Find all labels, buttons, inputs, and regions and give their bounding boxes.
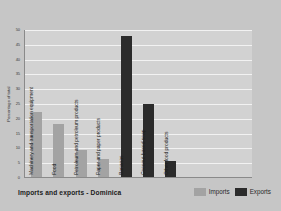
- bar-group: Coconut-based soap: [143, 30, 154, 177]
- chart-figure: 50454035302520151050 Percentage of total…: [0, 0, 281, 211]
- bar-group: Petroleum and petroleum products: [76, 30, 87, 177]
- y-axis-tick-label: 0: [18, 176, 20, 180]
- legend-label-exports: Exports: [250, 189, 271, 195]
- legend-item-imports: Imports: [194, 188, 230, 196]
- bar-group: Bananas: [121, 30, 132, 177]
- y-axis-tick-label: 35: [16, 72, 20, 76]
- y-axis-tick-label: 50: [16, 28, 20, 32]
- y-axis-tick-label: 30: [16, 87, 20, 91]
- x-axis-category-label: Food: [52, 164, 57, 175]
- y-axis-tick-label: 40: [16, 58, 20, 62]
- y-axis-tick-label: 25: [16, 102, 20, 106]
- y-axis-tick-label: 10: [16, 146, 20, 150]
- x-axis-category-label: Paper and paper products: [96, 118, 101, 175]
- legend-swatch-imports-icon: [194, 188, 206, 196]
- y-axis-tick-label: 20: [16, 117, 20, 121]
- legend-label-imports: Imports: [209, 189, 230, 195]
- chart-title: Imports and exports - Dominica: [18, 190, 121, 197]
- legend-swatch-exports-icon: [235, 188, 247, 196]
- x-axis-category-label: Coconut-based soap: [141, 129, 146, 175]
- legend-item-exports: Exports: [235, 188, 271, 196]
- bar-group: Machinery and transportation equipment: [31, 30, 42, 177]
- bar-group: Paper and paper products: [98, 30, 109, 177]
- bar-group: Food: [53, 30, 64, 177]
- y-axis-tick-label: 5: [18, 161, 20, 165]
- bar-group: Other food products: [165, 30, 176, 177]
- x-axis-category-label: Bananas: [119, 155, 124, 175]
- y-axis-tick-label: 45: [16, 43, 20, 47]
- x-axis-category-label: Other food products: [164, 131, 169, 175]
- y-axis-title-text: Percentage of total: [8, 86, 12, 121]
- bars-container: Machinery and transportation equipmentFo…: [25, 30, 252, 177]
- y-axis-title: Percentage of total: [5, 30, 15, 178]
- chart-legend: Imports Exports: [194, 188, 271, 196]
- x-axis-category-label: Petroleum and petroleum products: [74, 99, 79, 175]
- y-axis-tick-label: 15: [16, 132, 20, 136]
- gridline: [25, 178, 252, 179]
- x-axis-category-label: Machinery and transportation equipment: [29, 87, 34, 175]
